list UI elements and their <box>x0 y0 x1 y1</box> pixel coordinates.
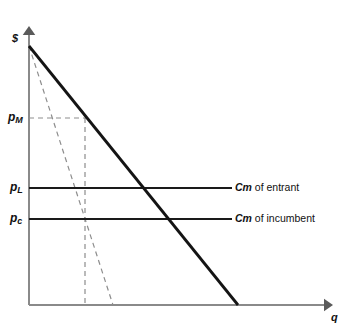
demand-curve <box>29 46 238 305</box>
marginal-revenue-curve <box>29 46 113 305</box>
price-label-pc: pc <box>10 212 22 224</box>
legend-cm-entrant-text: of entrant <box>252 181 299 193</box>
price-label-pl: pL <box>10 181 23 193</box>
legend-cm-incumbent-text: of incumbent <box>252 212 315 224</box>
legend-cm-entrant-symbol: Cm <box>235 181 252 193</box>
price-subscript-pl: L <box>17 185 23 195</box>
y-axis-label: $ <box>12 33 18 44</box>
price-label-pm: pM <box>8 111 23 123</box>
economics-diagram-svg <box>0 0 350 328</box>
legend-cm-incumbent-symbol: Cm <box>235 212 252 224</box>
price-subscript-pc: c <box>17 216 22 226</box>
legend-cm-incumbent: Cm of incumbent <box>235 213 315 224</box>
x-axis-label: q <box>331 312 338 323</box>
price-subscript-pm: M <box>15 115 23 125</box>
legend-cm-entrant: Cm of entrant <box>235 182 299 193</box>
figure-canvas: $ q pM pL pc Cm of entrant Cm of incumbe… <box>0 0 350 328</box>
